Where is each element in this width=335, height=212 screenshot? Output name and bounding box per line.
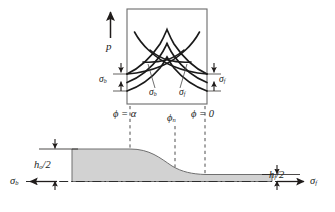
exit-thickness-suffix: /2	[276, 169, 284, 180]
figure-vector	[0, 0, 335, 212]
neutral-angle-label: ϕn	[167, 113, 176, 124]
front-tension-subscript: f	[315, 179, 317, 186]
sigma-f-dimension-label: σf	[219, 75, 225, 85]
sigma-b-dimension-label: σb	[99, 75, 107, 85]
sigma-b-dimension	[113, 63, 128, 91]
inner-sigma-f-label: σf	[179, 88, 185, 98]
strip-profile	[72, 149, 272, 182]
exit-thickness-label: hf/2	[269, 170, 284, 181]
back-tension-subscript: b	[15, 179, 18, 186]
figure-canvas: p σb σf σb σf ϕ = α ϕn ϕ = 0 ho/2 hf/2 σ…	[0, 0, 335, 212]
inner-sigma-b-label: σb	[149, 88, 157, 98]
exit-angle-label: ϕ = 0	[191, 109, 214, 120]
inner-sigma-f-subscript: f	[184, 91, 186, 97]
entry-angle-label: ϕ = α	[113, 109, 136, 120]
entry-thickness-suffix: /2	[43, 159, 51, 170]
inner-sigma-b-subscript: b	[154, 91, 157, 97]
neutral-angle-subscript: n	[172, 116, 175, 123]
sigma-f-subscript: f	[224, 78, 226, 84]
front-tension-label: σf	[310, 176, 317, 187]
back-tension-label: σb	[10, 176, 18, 187]
strip-body	[72, 149, 272, 182]
pressure-axis-label: p	[106, 41, 112, 52]
entry-thickness-label: ho/2	[34, 160, 51, 171]
sigma-b-subscript: b	[104, 78, 107, 84]
